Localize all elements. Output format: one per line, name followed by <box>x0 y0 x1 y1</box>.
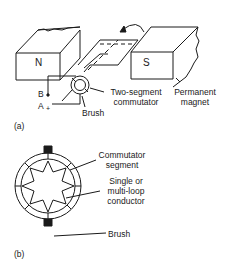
commutator-cross-section <box>15 146 106 236</box>
south-pole-label: S <box>143 58 150 68</box>
dc-motor-diagram <box>0 0 227 264</box>
commutator <box>71 76 89 94</box>
commutator-label: Two-segment commutator <box>104 87 168 107</box>
south-magnet <box>131 27 199 87</box>
terminal-a-sign: + <box>46 104 50 114</box>
terminal-a-label: A <box>38 101 44 111</box>
permanent-magnet-label: Permanent magnet <box>170 87 220 107</box>
north-pole-label: N <box>35 58 42 68</box>
brush-label-a: Brush <box>82 108 104 118</box>
north-magnet <box>16 27 80 80</box>
panel-label-a: (a) <box>14 121 24 131</box>
panel-label-b: (b) <box>14 249 24 259</box>
terminal-b-label: B <box>38 89 44 99</box>
brush-label-b: Brush <box>108 229 130 239</box>
conductor-label: Single or multi-loop conductor <box>100 176 152 206</box>
commutator-segment-label: Commutator segment <box>94 150 150 170</box>
